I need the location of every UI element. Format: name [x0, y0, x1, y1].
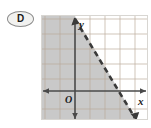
y-axis-label: y	[79, 19, 84, 30]
coordinate-graph-svg	[42, 16, 148, 120]
answer-choice-letter: D	[17, 14, 24, 24]
coordinate-graph-panel: y x O	[41, 15, 148, 120]
x-axis-label: x	[138, 96, 144, 107]
origin-label: O	[65, 95, 72, 105]
answer-choice-badge[interactable]: D	[7, 11, 34, 27]
